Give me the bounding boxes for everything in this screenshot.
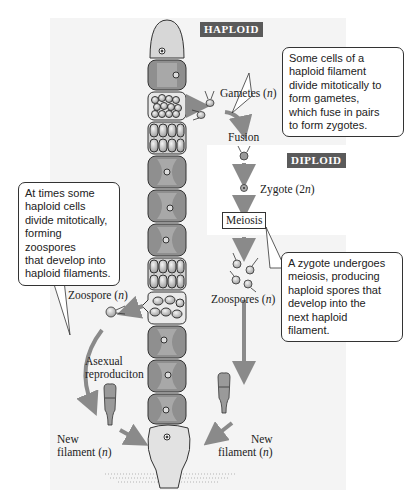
filament [142,20,190,488]
filament-cell-vegetative [148,60,186,90]
young-filament-left-icon [104,384,116,425]
filament-cell-vegetative [148,360,186,392]
new-filament-left-label: New filament (n) [57,433,112,459]
filament-cell-apical [150,20,184,58]
zoospores-label: Zoospores (n) [211,293,275,306]
filament-cell-vegetative [148,190,186,222]
zygote-icon [241,185,248,192]
gametes-label: Gametes (n) [220,87,277,100]
arrow-zoosporangium-release [128,306,143,311]
haploid-badge: HAPLOID [200,22,263,37]
filament-cell-gametangium [148,92,186,120]
meiosis-callout: A zygote undergoes meiosis, producing ha… [281,252,403,342]
fusion-label: Fusion [228,131,259,144]
new-filament-right-label: New filament (n) [218,433,273,459]
meiosis-box: Meiosis [222,212,266,229]
filament-cell-vegetative [148,156,186,188]
gametes-callout: Some cells of a haploid filament divide … [282,47,404,137]
zygote-label: Zygote (2n) [260,183,315,196]
filament-cell-vegetative [148,394,186,424]
filament-cell-zoosporangium [142,292,186,324]
young-filament-right-icon [218,373,230,413]
zoospores-icon [230,253,258,292]
zoospore-icon [106,306,125,317]
filament-cell-dividing [148,122,186,154]
zoospores-callout: At times some haploid cells divide mitot… [18,182,120,286]
zoospore-label: Zoospore (n) [68,289,128,302]
arrow-left-filament-to-base [120,430,138,440]
filament-cell-basal-holdfast [148,425,190,488]
filament-cell-vegetative [148,224,186,256]
diploid-badge: DIPLOID [287,153,346,168]
filament-cell-vegetative [148,326,186,358]
asexual-reproduction-label: Asexual reproduciton [85,355,144,381]
arrow-gametes-to-fusion [225,112,243,128]
filament-cell-dividing [148,258,186,290]
fused-gametes-icon [238,146,250,160]
